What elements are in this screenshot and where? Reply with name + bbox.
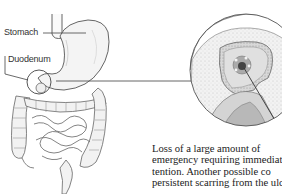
text-line: tention. Another possible co: [152, 166, 282, 177]
body-text: Loss of a large amount of emergency requ…: [152, 143, 282, 189]
stomach-label: Stomach: [4, 27, 38, 37]
text-line: persistent scarring from the ulce: [152, 177, 282, 188]
large-intestine: [12, 88, 107, 194]
text-line: emergency requiring immediat: [152, 154, 282, 165]
duodenum-label: Duodenum: [8, 54, 50, 64]
text-line: Loss of a large amount of: [152, 143, 282, 154]
magnified-inset: [190, 1, 282, 130]
appendix: [22, 158, 34, 168]
small-intestine: [32, 115, 90, 159]
